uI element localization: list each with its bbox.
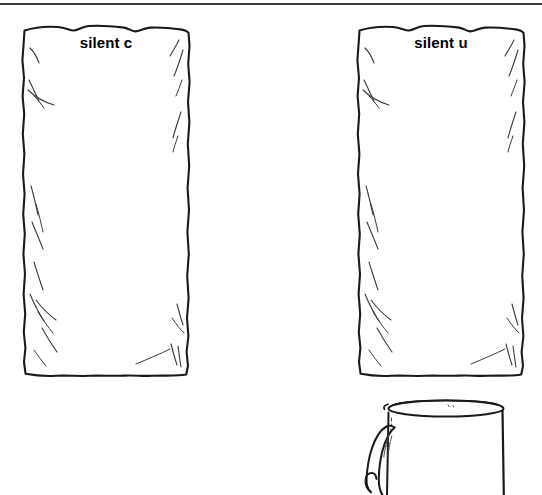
torn-paper-outline-icon	[16, 18, 196, 383]
note-label-silent-c: silent c	[16, 34, 196, 52]
torn-paper-note-silent-c[interactable]	[16, 18, 196, 383]
beaker-jug-illustration	[360, 396, 542, 495]
top-horizontal-rule	[0, 3, 542, 5]
beaker-jug-icon	[360, 396, 542, 495]
torn-paper-outline-icon	[351, 18, 531, 383]
worksheet-canvas: silent c	[0, 0, 542, 495]
torn-paper-note-silent-u[interactable]	[351, 18, 531, 383]
note-label-silent-u: silent u	[351, 34, 531, 52]
